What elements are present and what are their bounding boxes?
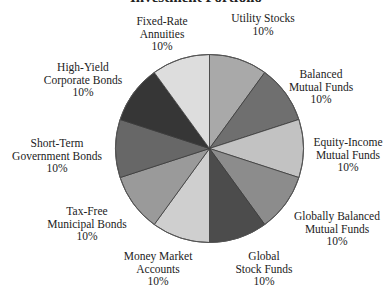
slice-label-line: Annuities <box>136 28 187 41</box>
slice-label-percent: 10% <box>235 275 292 288</box>
slice-label-line: Accounts <box>124 263 193 276</box>
slice-label-globally-balanced-mutual-funds: Globally Balanced Mutual Funds 10% <box>294 210 380 248</box>
slice-label-line: Money Market <box>124 250 193 263</box>
slice-label-line: Tax-Free <box>47 205 127 218</box>
slice-label-line: Mutual Funds <box>289 81 353 94</box>
slice-label-utility-stocks: Utility Stocks 10% <box>231 12 295 37</box>
slice-label-money-market-accounts: Money Market Accounts 10% <box>124 250 193 288</box>
slice-label-line: Corporate Bonds <box>44 74 122 87</box>
slice-label-line: Short-Term <box>12 137 102 150</box>
slice-label-line: Mutual Funds <box>294 223 380 236</box>
slice-label-tax-free-municipal-bonds: Tax-Free Municipal Bonds 10% <box>47 205 127 243</box>
slice-label-line: Fixed-Rate <box>136 15 187 28</box>
slice-label-percent: 10% <box>136 40 187 53</box>
slice-label-line: Balanced <box>289 68 353 81</box>
slice-label-percent: 10% <box>289 93 353 106</box>
slice-label-fixed-rate-annuities: Fixed-Rate Annuities 10% <box>136 15 187 53</box>
slice-label-percent: 10% <box>124 275 193 288</box>
slice-label-equity-income-mutual-funds: Equity-Income Mutual Funds 10% <box>314 136 383 174</box>
slice-label-percent: 10% <box>231 25 295 38</box>
slice-label-line: Stock Funds <box>235 263 292 276</box>
slice-label-percent: 10% <box>12 162 102 175</box>
slice-label-line: Equity-Income <box>314 136 383 149</box>
slice-label-global-stock-funds: Global Stock Funds 10% <box>235 250 292 288</box>
slice-label-line: Government Bonds <box>12 150 102 163</box>
slice-label-percent: 10% <box>47 230 127 243</box>
slice-label-line: Global <box>235 250 292 263</box>
slice-label-percent: 10% <box>294 235 380 248</box>
slice-label-balanced-mutual-funds: Balanced Mutual Funds 10% <box>289 68 353 106</box>
slice-label-high-yield-corporate-bonds: High-Yield Corporate Bonds 10% <box>44 61 122 99</box>
slice-label-percent: 10% <box>314 161 383 174</box>
slice-label-line: Mutual Funds <box>314 149 383 162</box>
slice-label-line: Municipal Bonds <box>47 218 127 231</box>
pie-chart: Investment Portfolio Utility Stocks 10% … <box>0 0 392 293</box>
slice-label-line: Globally Balanced <box>294 210 380 223</box>
slice-label-percent: 10% <box>44 86 122 99</box>
slice-label-short-term-government-bonds: Short-Term Government Bonds 10% <box>12 137 102 175</box>
slice-label-line: Utility Stocks <box>231 12 295 25</box>
slice-label-line: High-Yield <box>44 61 122 74</box>
